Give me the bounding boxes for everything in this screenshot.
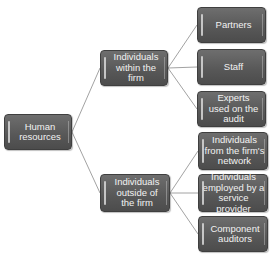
node-label: Experts used on the audit bbox=[206, 93, 261, 125]
node-label: Individuals from the firm's network bbox=[203, 135, 266, 167]
node-individuals-from-network: Individuals from the firm's network bbox=[198, 132, 268, 170]
node-partners: Partners bbox=[197, 7, 266, 43]
node-individuals-within-firm: Individuals within the firm bbox=[100, 50, 168, 86]
node-label: Staff bbox=[224, 62, 243, 73]
node-label: Individuals within the firm bbox=[109, 52, 163, 84]
node-label: Individuals outside of the firm bbox=[109, 177, 165, 209]
node-service-provider: Individuals employed by a service provid… bbox=[198, 174, 268, 212]
node-human-resources: Human resources bbox=[4, 114, 72, 150]
node-staff: Staff bbox=[197, 49, 266, 85]
node-component-auditors: Component auditors bbox=[198, 216, 268, 252]
node-experts-used-on-audit: Experts used on the audit bbox=[197, 91, 266, 127]
node-individuals-outside-firm: Individuals outside of the firm bbox=[100, 174, 170, 212]
node-label: Partners bbox=[216, 20, 252, 31]
node-label: Human resources bbox=[13, 122, 67, 143]
node-label: Component auditors bbox=[207, 224, 263, 245]
node-label: Individuals employed by a service provid… bbox=[201, 172, 266, 214]
